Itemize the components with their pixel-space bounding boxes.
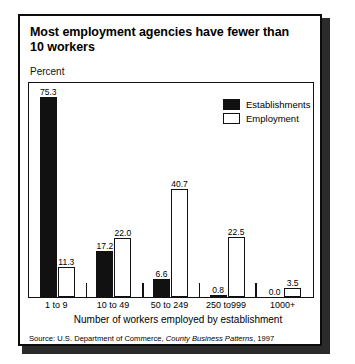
source-publication: County Business Patterns bbox=[166, 334, 253, 343]
x-axis-tick-labels: 1 to 910 to 4950 to 249250 to9991000+ bbox=[28, 300, 314, 312]
bar-emp-4: 3.5 bbox=[284, 288, 301, 297]
x-axis-tick-label: 1000+ bbox=[254, 300, 311, 310]
bar-emp-1: 22.0 bbox=[114, 238, 131, 297]
x-axis-group-separator-tick bbox=[86, 283, 88, 297]
bar-value-label: 22.0 bbox=[115, 229, 132, 238]
legend-swatch-employment bbox=[223, 113, 240, 124]
chart-title: Most employment agencies have fewer than… bbox=[30, 25, 316, 55]
bar-value-label: 40.7 bbox=[171, 180, 188, 189]
figure-frame: Most employment agencies have fewer than… bbox=[18, 14, 322, 346]
bar-value-label: 0.0 bbox=[269, 288, 281, 297]
bar-value-label: 0.8 bbox=[212, 286, 224, 295]
bar-value-label: 22.5 bbox=[228, 228, 245, 237]
x-axis-tick-label: 50 to 249 bbox=[141, 300, 198, 310]
source-note: Source: U.S. Department of Commerce, Cou… bbox=[29, 334, 319, 344]
bar-emp-2: 40.7 bbox=[171, 189, 188, 297]
bar-value-label: 11.3 bbox=[58, 258, 74, 267]
plot-area: 75.311.317.222.06.640.70.822.50.03.5 Est… bbox=[28, 82, 314, 298]
bar-group: 17.222.0 bbox=[96, 83, 131, 297]
bar-value-label: 17.2 bbox=[97, 242, 114, 251]
bar-emp-3: 22.5 bbox=[228, 237, 245, 297]
y-axis-unit-label: Percent bbox=[30, 66, 64, 77]
legend-label-employment: Employment bbox=[246, 113, 299, 124]
legend-swatch-establishments bbox=[223, 99, 240, 110]
bar-est-2: 6.6 bbox=[153, 279, 170, 297]
bar-emp-0: 11.3 bbox=[58, 267, 75, 297]
x-axis-tick-label: 250 to999 bbox=[198, 300, 255, 310]
source-prefix: Source: U.S. Department of Commerce, bbox=[29, 334, 166, 343]
source-suffix: , 1997 bbox=[253, 334, 274, 343]
legend-item-employment: Employment bbox=[223, 113, 310, 124]
legend-item-establishments: Establishments bbox=[223, 99, 310, 110]
chart-title-line-2: 10 workers bbox=[30, 40, 316, 55]
bar-value-label: 75.3 bbox=[40, 88, 57, 97]
bar-value-label: 6.6 bbox=[156, 270, 168, 279]
legend-label-establishments: Establishments bbox=[246, 99, 310, 110]
bar-est-1: 17.2 bbox=[96, 251, 113, 297]
bar-group: 75.311.3 bbox=[40, 83, 75, 297]
bar-group: 6.640.7 bbox=[153, 83, 188, 297]
x-axis-title: Number of workers employed by establishm… bbox=[28, 314, 328, 325]
x-axis-tick-label: 10 to 49 bbox=[85, 300, 142, 310]
x-axis-group-separator-tick bbox=[142, 283, 144, 297]
bar-value-label: 3.5 bbox=[287, 279, 299, 288]
x-axis-group-separator-tick bbox=[199, 283, 201, 297]
bar-est-3: 0.8 bbox=[210, 295, 227, 297]
chart-title-line-1: Most employment agencies have fewer than bbox=[30, 25, 289, 39]
bar-est-0: 75.3 bbox=[40, 97, 57, 297]
chart-legend: Establishments Employment bbox=[223, 99, 310, 127]
x-axis-tick-label: 1 to 9 bbox=[28, 300, 85, 310]
figure-root: Most employment agencies have fewer than… bbox=[0, 0, 355, 364]
x-axis-group-separator-tick bbox=[255, 283, 257, 297]
